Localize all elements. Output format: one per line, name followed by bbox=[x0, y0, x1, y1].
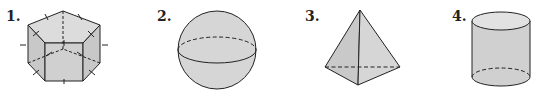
cylinder bbox=[472, 12, 530, 86]
triangular-pyramid bbox=[325, 10, 400, 85]
sphere bbox=[178, 11, 256, 89]
solids-drawing bbox=[0, 0, 538, 96]
pentagonal-prism bbox=[20, 11, 108, 84]
